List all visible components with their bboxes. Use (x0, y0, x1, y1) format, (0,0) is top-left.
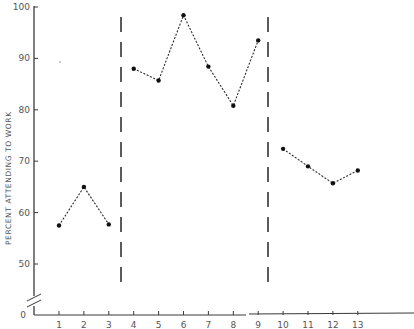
data-point-marker (281, 147, 285, 151)
x-axis-line (249, 313, 414, 314)
data-point-marker (231, 103, 235, 107)
x-tick-label: 11 (302, 320, 313, 329)
line-chart: 0506070809010012345678910111213 PERCENT … (0, 0, 414, 329)
data-point-marker (256, 38, 260, 42)
x-tick-label: 10 (277, 320, 289, 329)
data-point-marker (156, 78, 160, 82)
y-tick-label: 100 (13, 2, 30, 12)
data-point-marker (132, 66, 136, 70)
y-tick-label: 60 (19, 208, 31, 218)
y-tick-label: 0 (20, 310, 26, 320)
data-point-marker (206, 64, 210, 68)
x-tick-label: 5 (156, 320, 162, 329)
x-tick-label: 4 (131, 320, 137, 329)
x-tick-label: 2 (81, 320, 87, 329)
x-tick-label: 12 (327, 320, 338, 329)
speck (59, 61, 60, 62)
series-line (134, 15, 259, 105)
y-tick-label: 80 (19, 105, 31, 115)
x-tick-label: 9 (255, 320, 261, 329)
series-line (283, 149, 358, 183)
x-tick-label: 6 (181, 320, 187, 329)
x-tick-label: 1 (56, 320, 62, 329)
x-tick-label: 3 (106, 320, 112, 329)
data-point-marker (181, 13, 185, 17)
x-tick-label: 8 (230, 320, 236, 329)
y-tick-label: 90 (19, 53, 31, 63)
x-tick-label: 13 (352, 320, 363, 329)
axis-break-mark (27, 300, 41, 307)
data-point-marker (107, 222, 111, 226)
data-point-marker (57, 223, 61, 227)
phase-dividers (121, 17, 268, 288)
data-point-marker (331, 181, 335, 185)
y-axis-label: PERCENT ATTENDING TO WORK (4, 111, 13, 245)
x-tick-label: 7 (206, 320, 212, 329)
axes (27, 6, 414, 315)
data-point-marker (306, 164, 310, 168)
data-point-marker (356, 168, 360, 172)
y-tick-label: 70 (19, 156, 31, 166)
y-tick-label: 50 (19, 259, 31, 269)
data-series (57, 13, 360, 228)
tick-labels: 0506070809010012345678910111213 (13, 2, 364, 329)
data-point-marker (82, 185, 86, 189)
series-line (59, 187, 109, 226)
